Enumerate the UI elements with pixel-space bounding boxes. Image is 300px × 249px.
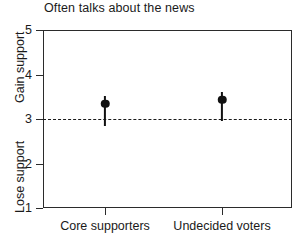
chart-title: Often talks about the news <box>44 1 195 16</box>
y-tick-mark-4 <box>36 75 43 76</box>
x-tick-mark-core-supporters <box>105 208 106 215</box>
y-tick-mark-1 <box>36 208 43 209</box>
x-tick-mark-undecided-voters <box>222 208 223 215</box>
y-axis-title-lose-support: Lose support <box>14 141 27 213</box>
marker-core-supporters <box>101 99 110 108</box>
y-axis-title-gain-support: Gain support <box>14 31 27 103</box>
marker-undecided-voters <box>218 95 227 104</box>
y-tick-mark-2 <box>36 164 43 165</box>
x-tick-label-core-supporters: Core supporters <box>60 220 150 233</box>
y-tick-mark-3 <box>36 119 43 120</box>
data-point-undecided-voters <box>212 30 232 208</box>
x-tick-label-undecided-voters: Undecided voters <box>173 220 270 233</box>
data-point-core-supporters <box>95 30 115 208</box>
y-tick-mark-5 <box>36 30 43 31</box>
reference-line-neutral <box>43 119 292 120</box>
chart-figure: Often talks about the news 5 4 3 2 1 Gai… <box>0 0 300 249</box>
y-tick-label-3: 3 <box>2 113 32 126</box>
